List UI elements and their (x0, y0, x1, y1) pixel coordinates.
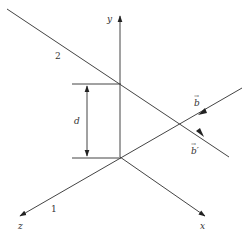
vector-b-prime-label: b′ (191, 146, 199, 156)
distance-label: d (74, 116, 80, 126)
vector-b-arrow-glyph: → (194, 92, 199, 99)
line-2-label: 2 (55, 51, 61, 61)
line-1 (20, 88, 242, 216)
line-1-label: 1 (51, 204, 57, 214)
diagram-canvas: y z x 2 1 d b → b′ → (0, 0, 250, 239)
z-axis-label: z (17, 221, 23, 231)
x-axis (120, 157, 205, 216)
vector-b-prime-arrow-glyph: → (191, 140, 196, 147)
line-2 (7, 9, 229, 157)
x-axis-label: x (200, 221, 205, 231)
y-axis-label: y (106, 14, 113, 24)
vector-b-label: b (194, 98, 200, 108)
